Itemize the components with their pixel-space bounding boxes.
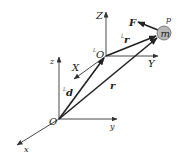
local-x-label: X	[71, 62, 80, 73]
local-z-label: Z	[95, 10, 104, 21]
r-label: r	[110, 80, 116, 91]
point-label: p	[166, 15, 171, 24]
world-frame	[17, 57, 117, 145]
world-x-label: x	[24, 145, 29, 154]
vector-r	[59, 38, 157, 119]
force-label: F	[128, 17, 137, 28]
mass-label: m	[161, 28, 170, 39]
world-origin-label: O	[49, 116, 57, 127]
force-vector	[138, 22, 158, 30]
d-label: d	[66, 87, 73, 98]
local-y-label: Y	[148, 58, 156, 69]
world-y-label: y	[109, 122, 115, 131]
local-r-label: r	[124, 34, 130, 45]
local-frame	[74, 12, 158, 79]
local-origin-label: O	[96, 49, 104, 60]
frames-diagram: m p O x y z L O X Y Z L d r L r F	[0, 0, 192, 160]
world-z-label: z	[49, 57, 55, 66]
